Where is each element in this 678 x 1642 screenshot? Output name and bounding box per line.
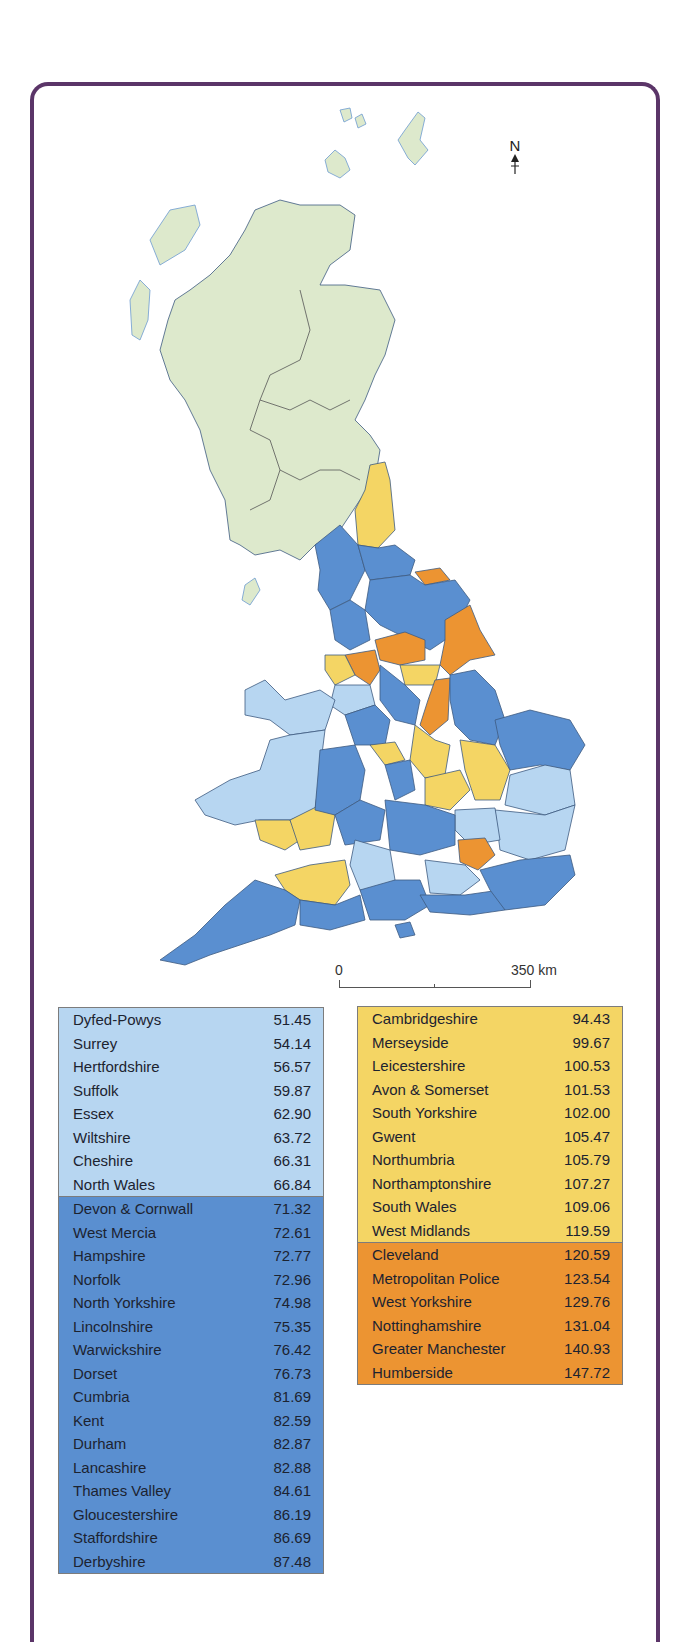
police-force-value: 100.53 bbox=[564, 1054, 610, 1078]
police-force-name: West Yorkshire bbox=[372, 1290, 472, 1314]
police-force-name: Lincolnshire bbox=[73, 1315, 153, 1339]
area-norfolk bbox=[495, 710, 585, 770]
police-force-value: 131.04 bbox=[564, 1314, 610, 1338]
police-force-name: Leicestershire bbox=[372, 1054, 465, 1078]
police-force-value: 109.06 bbox=[564, 1195, 610, 1219]
police-force-value: 82.87 bbox=[273, 1432, 311, 1456]
police-force-value: 84.61 bbox=[273, 1479, 311, 1503]
police-force-value: 71.32 bbox=[273, 1197, 311, 1221]
scale-start-label: 0 bbox=[335, 962, 343, 978]
police-force-value: 129.76 bbox=[564, 1290, 610, 1314]
police-force-value: 66.31 bbox=[273, 1149, 311, 1173]
police-force-name: Cheshire bbox=[73, 1149, 133, 1173]
legend-row: Surrey54.14 bbox=[59, 1032, 323, 1056]
legend-row: Cleveland120.59 bbox=[358, 1243, 622, 1267]
legend-row: Suffolk59.87 bbox=[59, 1079, 323, 1103]
police-force-name: Durham bbox=[73, 1432, 126, 1456]
area-north-wales bbox=[245, 680, 335, 735]
police-force-name: Hertfordshire bbox=[73, 1055, 160, 1079]
area-essex bbox=[495, 805, 575, 860]
police-force-name: Cambridgeshire bbox=[372, 1007, 478, 1031]
legend-row: Gloucestershire86.19 bbox=[59, 1503, 323, 1527]
police-force-name: Humberside bbox=[372, 1361, 453, 1385]
police-force-value: 82.88 bbox=[273, 1456, 311, 1480]
police-force-value: 82.59 bbox=[273, 1409, 311, 1433]
legend-row: Kent82.59 bbox=[59, 1409, 323, 1433]
legend-row: Metropolitan Police123.54 bbox=[358, 1267, 622, 1291]
north-arrow: N bbox=[505, 138, 525, 174]
police-force-value: 105.47 bbox=[564, 1125, 610, 1149]
legend-row: Derbyshire87.48 bbox=[59, 1550, 323, 1574]
legend-group-class-2: Devon & Cornwall71.32West Mercia72.61Ham… bbox=[58, 1196, 324, 1574]
police-force-name: Essex bbox=[73, 1102, 114, 1126]
police-force-value: 101.53 bbox=[564, 1078, 610, 1102]
police-force-name: Lancashire bbox=[73, 1456, 146, 1480]
police-force-value: 72.77 bbox=[273, 1244, 311, 1268]
police-force-name: South Yorkshire bbox=[372, 1101, 477, 1125]
legend-row: Northamptonshire107.27 bbox=[358, 1172, 622, 1196]
legend-row: Dorset76.73 bbox=[59, 1362, 323, 1386]
area-west-midlands bbox=[370, 742, 405, 765]
police-force-name: Derbyshire bbox=[73, 1550, 146, 1574]
area-durham bbox=[358, 545, 415, 580]
area-west-yorkshire bbox=[375, 632, 425, 665]
area-lancashire bbox=[330, 600, 370, 650]
police-force-value: 123.54 bbox=[564, 1267, 610, 1291]
legend-row: West Midlands119.59 bbox=[358, 1219, 622, 1243]
police-force-name: Surrey bbox=[73, 1032, 117, 1056]
legend-group-class-1: Dyfed-Powys51.45Surrey54.14Hertfordshire… bbox=[58, 1007, 324, 1196]
area-sussex bbox=[420, 890, 505, 915]
legend-row: South Yorkshire102.00 bbox=[358, 1101, 622, 1125]
police-force-value: 81.69 bbox=[273, 1385, 311, 1409]
police-force-name: Dorset bbox=[73, 1362, 117, 1386]
north-label: N bbox=[505, 138, 525, 154]
police-force-value: 74.98 bbox=[273, 1291, 311, 1315]
orkney-islands bbox=[325, 108, 366, 178]
police-force-name: Nottinghamshire bbox=[372, 1314, 481, 1338]
area-suffolk bbox=[505, 765, 575, 815]
area-hampshire bbox=[360, 880, 430, 938]
police-force-value: 66.84 bbox=[273, 1173, 311, 1197]
legend-row: Cheshire66.31 bbox=[59, 1149, 323, 1173]
police-force-value: 51.45 bbox=[273, 1008, 311, 1032]
police-force-name: West Midlands bbox=[372, 1219, 470, 1243]
legend-row: Dyfed-Powys51.45 bbox=[59, 1008, 323, 1032]
police-force-value: 76.42 bbox=[273, 1338, 311, 1362]
legend-group-class-4: Cleveland120.59Metropolitan Police123.54… bbox=[357, 1242, 623, 1385]
scale-end-label: 350 km bbox=[511, 962, 557, 978]
scale-bar: 0 350 km bbox=[337, 960, 577, 996]
shetland-islands bbox=[398, 112, 428, 165]
legend-row: Hampshire72.77 bbox=[59, 1244, 323, 1268]
police-force-value: 72.61 bbox=[273, 1221, 311, 1245]
legend-row: West Mercia72.61 bbox=[59, 1221, 323, 1245]
police-force-name: Cumbria bbox=[73, 1385, 130, 1409]
legend-row: Northumbria105.79 bbox=[358, 1148, 622, 1172]
police-force-name: South Wales bbox=[372, 1195, 457, 1219]
police-force-name: Northamptonshire bbox=[372, 1172, 491, 1196]
legend-row: Essex62.90 bbox=[59, 1102, 323, 1126]
police-force-name: Warwickshire bbox=[73, 1338, 162, 1362]
police-force-value: 102.00 bbox=[564, 1101, 610, 1125]
legend-row: Staffordshire86.69 bbox=[59, 1526, 323, 1550]
police-force-value: 87.48 bbox=[273, 1550, 311, 1574]
police-force-name: Avon & Somerset bbox=[372, 1078, 488, 1102]
legend-row: Lincolnshire75.35 bbox=[59, 1315, 323, 1339]
scale-line bbox=[339, 980, 531, 988]
uk-choropleth-map bbox=[0, 0, 678, 1000]
police-force-value: 86.69 bbox=[273, 1526, 311, 1550]
legend-row: Durham82.87 bbox=[59, 1432, 323, 1456]
police-force-name: Staffordshire bbox=[73, 1526, 158, 1550]
police-force-name: Norfolk bbox=[73, 1268, 121, 1292]
scale-midpoint-tick bbox=[434, 984, 435, 988]
police-force-name: Dyfed-Powys bbox=[73, 1008, 161, 1032]
area-lincolnshire bbox=[450, 670, 505, 745]
legend-row: South Wales109.06 bbox=[358, 1195, 622, 1219]
police-force-value: 54.14 bbox=[273, 1032, 311, 1056]
legend-row: Leicestershire100.53 bbox=[358, 1054, 622, 1078]
legend-row: Nottinghamshire131.04 bbox=[358, 1314, 622, 1338]
police-force-value: 94.43 bbox=[572, 1007, 610, 1031]
police-force-name: Gwent bbox=[372, 1125, 415, 1149]
police-force-value: 107.27 bbox=[564, 1172, 610, 1196]
legend-row: Cambridgeshire94.43 bbox=[358, 1007, 622, 1031]
police-force-name: Devon & Cornwall bbox=[73, 1197, 193, 1221]
